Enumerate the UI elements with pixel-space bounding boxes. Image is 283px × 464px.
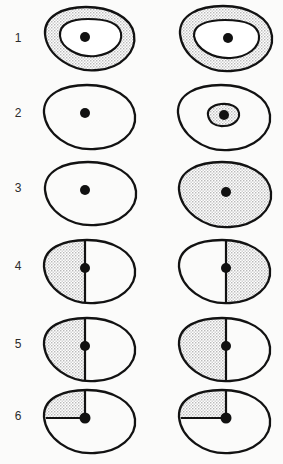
cell-row2-right xyxy=(178,85,270,150)
row4-right-center-dot xyxy=(221,263,231,273)
row6-left-center-dot xyxy=(80,413,91,424)
row-label-2: 2 xyxy=(10,106,26,120)
cell-row3-right xyxy=(175,155,283,235)
row2-right-center-dot xyxy=(219,110,229,120)
row3-left-center-dot xyxy=(80,185,90,195)
cell-row1-left xyxy=(40,0,150,90)
cell-row2-left xyxy=(44,85,135,149)
receptive-field-diagram: 1 2 3 4 5 6 xyxy=(0,0,283,464)
cell-row6-left xyxy=(40,385,135,453)
cell-row4-right xyxy=(179,233,283,311)
row2-left-outer-contour xyxy=(44,85,135,149)
row5-left-center-dot xyxy=(80,341,90,351)
cell-row5-right xyxy=(175,311,270,389)
row-label-3: 3 xyxy=(10,181,26,195)
row3-left-outer-contour xyxy=(45,162,136,225)
row5-right-center-dot xyxy=(221,341,231,351)
row-label-1: 1 xyxy=(10,31,26,45)
row-label-6: 6 xyxy=(10,409,26,423)
cell-row5-left xyxy=(40,311,135,389)
diagram-canvas xyxy=(0,0,283,464)
row-label-5: 5 xyxy=(10,337,26,351)
row4-right-shading xyxy=(226,233,283,311)
row1-left-inner-contour xyxy=(60,19,121,56)
cell-row3-left xyxy=(45,162,136,225)
cell-row1-right xyxy=(175,0,283,90)
row5-right-shading xyxy=(175,311,226,389)
row6-right-center-dot xyxy=(221,413,232,424)
row1-left-center-dot xyxy=(80,32,90,42)
row1-right-center-dot xyxy=(223,33,233,43)
row4-left-center-dot xyxy=(80,263,90,273)
row3-right-center-dot xyxy=(221,187,231,197)
row2-left-center-dot xyxy=(80,108,90,118)
cell-row4-left xyxy=(40,233,135,311)
cell-row6-right xyxy=(175,385,270,453)
row-label-4: 4 xyxy=(10,259,26,273)
